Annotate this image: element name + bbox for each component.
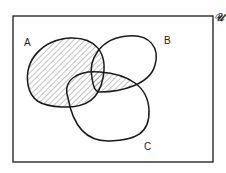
- venn-svg: 𝒰 A B C: [0, 0, 226, 173]
- set-b-label: B: [164, 35, 171, 46]
- venn-diagram: 𝒰 A B C: [0, 0, 226, 173]
- set-c-label: C: [144, 141, 151, 152]
- set-a-shading: [27, 38, 104, 107]
- universe-label: 𝒰: [214, 11, 226, 24]
- set-a-label: A: [24, 37, 31, 48]
